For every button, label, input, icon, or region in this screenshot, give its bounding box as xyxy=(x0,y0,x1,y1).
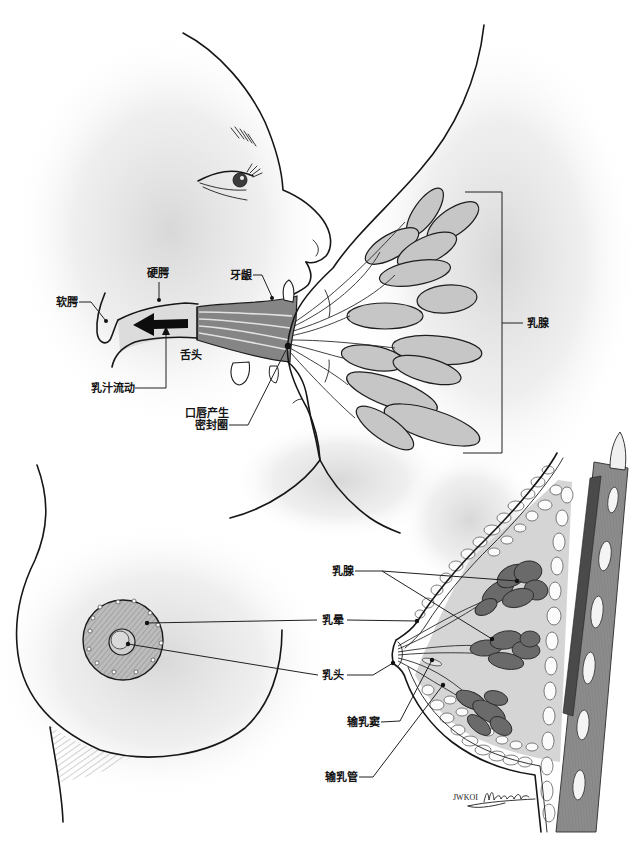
leader-dot xyxy=(441,683,445,687)
fat-lobule xyxy=(456,708,468,716)
breast-crease xyxy=(325,360,329,382)
fat-lobule xyxy=(556,510,568,526)
fat-lobule xyxy=(547,607,561,625)
label-text: 乳腺 xyxy=(527,316,550,330)
fat-lobule xyxy=(444,696,456,704)
eye-highlight xyxy=(240,176,244,180)
breast-crease xyxy=(325,290,330,317)
fat-lobule xyxy=(501,536,513,544)
gland-dot xyxy=(116,600,120,604)
label-text-line2: 密封圈 xyxy=(195,418,228,432)
areola xyxy=(83,599,163,680)
fat-lobule xyxy=(545,657,557,675)
duct xyxy=(290,344,343,358)
fat-lobule xyxy=(541,757,553,775)
fat-lobule xyxy=(422,685,434,695)
leader-dot xyxy=(126,642,130,646)
leader-dot xyxy=(285,343,291,349)
fat-lobule xyxy=(510,741,522,749)
fat-lobule xyxy=(488,548,500,556)
fat-lobule xyxy=(475,745,491,755)
label-tongue: 舌头 xyxy=(180,348,202,362)
fat-lobule xyxy=(538,500,552,510)
leader-dot xyxy=(270,296,274,300)
leader-dot xyxy=(391,661,395,665)
gland-dot xyxy=(88,629,92,633)
leader-dot xyxy=(415,619,419,623)
signature-scribble xyxy=(468,793,535,808)
gland-dot xyxy=(159,641,163,645)
gland-dot xyxy=(151,658,155,662)
label-text: 舌头 xyxy=(180,348,202,362)
label-text: 乳晕 xyxy=(322,613,344,627)
fat-lobule xyxy=(549,582,561,600)
gland-dot xyxy=(95,661,99,665)
leader-line-right xyxy=(347,620,417,621)
fat-lobule xyxy=(503,755,519,765)
fat-lobule xyxy=(544,682,556,700)
leader-dot xyxy=(515,579,519,583)
iris xyxy=(233,173,247,187)
label-text-line1: 口唇产生 xyxy=(185,406,229,420)
fat-lobule xyxy=(550,485,562,495)
gland-dot xyxy=(148,611,152,615)
breastfeeding-anatomy-illustration: 软腭 硬腭 牙龈 舌头 乳汁流动 口唇产生 密封圈 xyxy=(0,0,639,842)
gland-dot xyxy=(98,605,102,609)
gland-dot xyxy=(87,647,91,651)
label-text: 输乳管 xyxy=(325,770,358,784)
gland-dot xyxy=(91,616,95,620)
fat-lobule xyxy=(514,524,526,532)
duct xyxy=(290,348,348,385)
fat-lobule xyxy=(526,511,538,521)
label-lactiferous-duct: 输乳管 xyxy=(325,683,445,784)
gland-dot xyxy=(134,670,138,674)
duct xyxy=(290,352,355,418)
leader-dot xyxy=(145,621,149,625)
nipple-inner xyxy=(111,631,129,649)
gland-dot xyxy=(156,623,160,627)
fat-lobule xyxy=(430,700,444,710)
fat-lobule xyxy=(542,732,554,750)
tendon-tip xyxy=(610,432,626,470)
fat-lobule xyxy=(543,707,555,725)
gland-dot xyxy=(132,599,136,603)
leader-dot xyxy=(490,637,494,641)
fat-lobule xyxy=(526,743,538,751)
label-text: 乳汁流动 xyxy=(91,381,135,395)
label-text: 硬腭 xyxy=(147,267,169,280)
chin-crease xyxy=(293,399,302,403)
fat-lobule xyxy=(546,632,558,650)
leader-dot xyxy=(430,658,434,662)
leader-line-right xyxy=(347,663,393,675)
leader-dot xyxy=(157,298,161,302)
label-text: 输乳窦 xyxy=(347,715,380,729)
signature-text: JWKOI xyxy=(453,793,478,802)
leader-dot xyxy=(104,319,108,323)
gland-dot xyxy=(112,670,116,674)
fat-lobule xyxy=(553,533,565,551)
shade-lower-breast xyxy=(0,520,330,800)
lobe xyxy=(520,631,540,647)
fat-lobule xyxy=(561,487,573,503)
label-text: 乳腺 xyxy=(332,564,355,578)
lobe xyxy=(347,303,423,329)
fat-lobule xyxy=(551,557,563,575)
label-text: 软腭 xyxy=(56,295,78,309)
fat-lobule xyxy=(440,713,454,723)
label-text: 乳头 xyxy=(322,668,344,682)
fat-lobule xyxy=(496,736,508,744)
label-text: 牙龈 xyxy=(230,268,253,282)
artist-signature: JWKOI xyxy=(453,793,535,808)
